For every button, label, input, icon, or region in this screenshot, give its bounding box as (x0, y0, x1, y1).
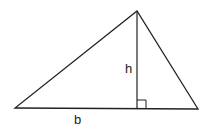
base-label: b (74, 112, 81, 127)
right-angle-marker (137, 100, 146, 109)
height-label: h (125, 61, 132, 76)
triangle (15, 11, 198, 109)
triangle-diagram: h b (0, 0, 213, 130)
